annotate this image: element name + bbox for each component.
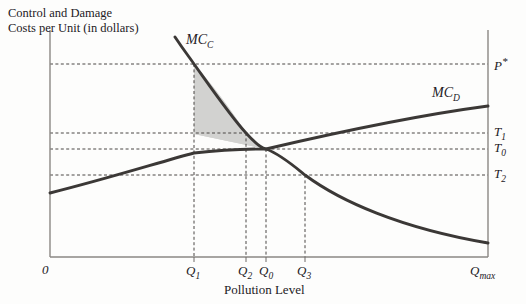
x-tick-qmax-main: Q [470,263,479,278]
curve-label-mc-c: MCC [186,32,213,51]
x-tick-q2-sub: 2 [247,271,252,281]
x-tick-label-q3: Q3 [297,263,311,282]
y-tick-t2-sub: 2 [501,174,506,184]
x-tick-label-qmax: Qmax [470,263,495,282]
x-tick-q0-sub: 0 [268,271,273,281]
curve-label-mc-c-main: MC [186,32,207,47]
origin-label: 0 [42,262,49,277]
y-tick-label-t0: T0 [494,140,506,159]
x-tick-q0-main: Q [259,263,268,278]
x-tick-q3-sub: 3 [306,271,311,281]
x-tick-q1-main: Q [186,263,195,278]
curve-mc-c [175,37,488,243]
y-tick-label-t2: T2 [494,166,506,185]
x-tick-qmax-sub: max [479,271,495,281]
curve-label-mc-d: MCD [432,85,460,104]
y-axis-title-line1: Control and Damage [8,6,139,21]
x-axis-title: Pollution Level [224,282,305,297]
y-axis-title: Control and Damage Costs per Unit (in do… [8,6,139,36]
x-tick-label-q1: Q1 [186,263,200,282]
y-axis-title-line2: Costs per Unit (in dollars) [8,21,139,36]
y-tick-label-p-star: P* [494,55,507,74]
plot-canvas [0,0,526,304]
curve-label-mc-d-main: MC [432,85,453,100]
x-tick-label-q2: Q2 [238,263,252,282]
x-tick-label-q0: Q0 [259,263,273,282]
y-tick-p-star-sup: * [502,55,508,67]
economics-chart-figure: Control and Damage Costs per Unit (in do… [0,0,526,304]
curve-label-mc-d-sub: D [453,93,460,103]
x-tick-q2-main: Q [238,263,247,278]
x-tick-q3-main: Q [297,263,306,278]
curve-label-mc-c-sub: C [207,40,213,50]
y-tick-p-star-main: P [494,58,502,73]
x-tick-q1-sub: 1 [195,271,200,281]
y-tick-t0-sub: 0 [501,148,506,158]
